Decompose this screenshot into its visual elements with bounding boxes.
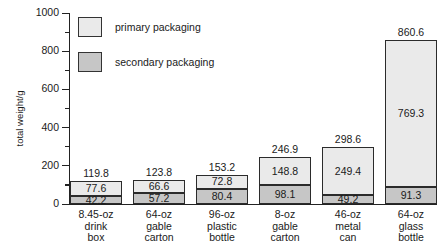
legend-label-primary: primary packaging [115, 21, 201, 33]
y-tick-major [62, 127, 69, 128]
y-tick-minor [65, 32, 69, 33]
y-tick-label: 800 [2, 44, 59, 56]
bar-segment-primary-value: 148.8 [272, 166, 298, 177]
legend-swatch-secondary [78, 52, 102, 72]
y-tick-label: 400 [2, 121, 59, 133]
y-tick-minor [65, 184, 69, 185]
y-tick-major [62, 13, 69, 14]
legend-item-primary: primary packaging [78, 17, 201, 37]
bar-segment-primary[interactable]: 72.8 [196, 175, 248, 189]
y-tick-minor [65, 70, 69, 71]
legend-swatch-primary [78, 17, 102, 37]
bar-segment-secondary-value: 42.2 [86, 195, 106, 206]
x-axis-category-line: carton [250, 232, 320, 244]
bar-segment-primary-value: 72.8 [212, 176, 232, 187]
bar-segment-primary[interactable]: 249.4 [322, 147, 374, 195]
y-tick-major [62, 165, 69, 166]
bar-group[interactable]: 119.877.642.28.45-ozdrinkbox [70, 181, 122, 204]
y-tick-major [62, 89, 69, 90]
x-axis-category-label: 96-ozplasticbottle [187, 209, 257, 244]
bar-segment-primary[interactable]: 769.3 [385, 40, 437, 187]
bar-segment-secondary-value: 80.4 [212, 191, 232, 202]
bar-group[interactable]: 298.6249.449.246-ozmetalcan [322, 147, 374, 204]
bar-segment-secondary[interactable]: 91.3 [385, 187, 437, 204]
legend-item-secondary: secondary packaging [78, 52, 214, 72]
y-tick-minor [65, 146, 69, 147]
bar-total-label: 153.2 [196, 161, 248, 173]
bar-chart: total weight/g 02004006008001000 primary… [0, 0, 446, 250]
x-axis-category-line: 64-oz [376, 209, 446, 221]
bar-segment-secondary[interactable]: 57.2 [133, 193, 185, 204]
bar-group[interactable]: 153.272.880.496-ozplasticbottle [196, 175, 248, 204]
x-axis-category-label: 8.45-ozdrinkbox [61, 209, 131, 244]
x-axis-category-line: bottle [376, 232, 446, 244]
x-axis-category-line: carton [124, 232, 194, 244]
bar-segment-primary-value: 769.3 [398, 108, 424, 119]
legend-label-secondary: secondary packaging [115, 56, 214, 68]
y-tick-major [62, 204, 69, 205]
x-axis-category-label: 46-ozmetalcan [313, 209, 383, 244]
bar-group[interactable]: 123.866.657.264-ozgablecarton [133, 180, 185, 204]
bar-segment-primary-value: 77.6 [86, 183, 106, 194]
x-axis-category-label: 64-ozgablecarton [124, 209, 194, 244]
bar-segment-secondary-value: 98.1 [275, 189, 295, 200]
x-axis-category-line: 64-oz [124, 209, 194, 221]
bar-total-label: 860.6 [385, 26, 437, 38]
x-axis-category-line: box [61, 232, 131, 244]
bar-segment-secondary[interactable]: 80.4 [196, 189, 248, 204]
x-axis-category-line: bottle [187, 232, 257, 244]
bar-segment-secondary-value: 91.3 [401, 190, 421, 201]
bar-total-label: 246.9 [259, 143, 311, 155]
y-tick-major [62, 51, 69, 52]
bar-segment-primary-value: 66.6 [149, 181, 169, 192]
x-axis-category-line: 96-oz [187, 209, 257, 221]
bar-total-label: 298.6 [322, 133, 374, 145]
bar-total-label: 123.8 [133, 166, 185, 178]
x-axis-category-label: 8-ozgablecarton [250, 209, 320, 244]
bar-segment-primary[interactable]: 148.8 [259, 157, 311, 185]
x-axis-category-line: 8-oz [250, 209, 320, 221]
bar-segment-secondary-value: 49.2 [338, 194, 358, 205]
y-tick-minor [65, 108, 69, 109]
bar-segment-secondary[interactable]: 98.1 [259, 185, 311, 204]
bar-segment-secondary[interactable]: 42.2 [70, 196, 122, 204]
x-axis-category-line: 46-oz [313, 209, 383, 221]
x-axis-category-line: 8.45-oz [61, 209, 131, 221]
y-tick-label: 200 [2, 159, 59, 171]
x-axis-category-label: 64-ozglassbottle [376, 209, 446, 244]
y-tick-label: 0 [2, 197, 59, 209]
bar-group[interactable]: 246.9148.898.18-ozgablecarton [259, 157, 311, 204]
y-tick-label: 1000 [2, 6, 59, 18]
bar-segment-primary[interactable]: 66.6 [133, 180, 185, 193]
y-tick-label: 600 [2, 82, 59, 94]
bar-segment-secondary-value: 57.2 [149, 193, 169, 204]
x-axis-line [69, 204, 437, 205]
x-axis-category-line: can [313, 232, 383, 244]
bar-segment-secondary[interactable]: 49.2 [322, 195, 374, 204]
bar-group[interactable]: 860.6769.391.364-ozglassbottle [385, 40, 437, 204]
bar-segment-primary-value: 249.4 [335, 166, 361, 177]
bar-total-label: 119.8 [70, 167, 122, 179]
